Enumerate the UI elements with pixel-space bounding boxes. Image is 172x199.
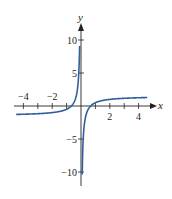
- x-tick-label: 4: [136, 111, 141, 122]
- y-tick-label: −5: [66, 134, 77, 145]
- y-axis-arrow-icon: [78, 23, 84, 31]
- function-graph: −4−224105−5−10 x y: [0, 0, 172, 199]
- y-tick-label: 10: [67, 35, 77, 46]
- y-tick-label: −10: [61, 167, 77, 178]
- curve-right-branch: [82, 98, 147, 175]
- axes: [14, 23, 157, 186]
- x-tick-label: −2: [47, 91, 58, 102]
- curve-left-branch: [16, 46, 79, 114]
- y-axis-label: y: [77, 11, 83, 23]
- x-axis-label: x: [157, 99, 163, 111]
- curve: [16, 46, 147, 174]
- y-tick-label: 5: [72, 68, 77, 79]
- x-axis-arrow-icon: [150, 103, 157, 109]
- x-tick-label: −4: [18, 91, 29, 102]
- x-tick-label: 2: [107, 111, 112, 122]
